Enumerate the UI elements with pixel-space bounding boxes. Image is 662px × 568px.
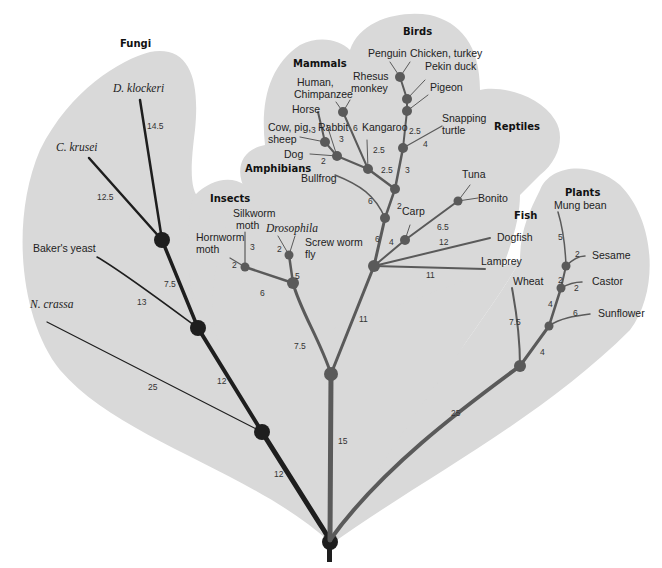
group-label-birds: Birds [403,26,432,37]
distance-label: 2.5 [381,165,393,175]
species-label: Snapping [442,112,487,124]
distance-label: 3 [339,134,344,144]
species-label: Pigeon [430,81,463,93]
species-label: Kangaroo [362,121,408,133]
species-label: Penguin [368,47,407,59]
species-label: monkey [351,82,389,94]
distance-label: 11 [359,314,368,324]
species-label: Baker's yeast [33,242,96,254]
distance-label: 2.5 [373,145,385,155]
species-label: Rabbit [318,121,348,133]
species-label: Dog [284,148,303,160]
distance-label: 5 [295,271,300,281]
distance-label: 12 [217,376,227,386]
species-label: moth [236,219,260,231]
distance-label: 2 [321,156,326,166]
distance-label: 4 [540,347,545,357]
distance-label: 12 [274,469,284,479]
species-label: Horse [292,103,320,115]
group-label-fish: Fish [514,210,537,221]
species-label: Pekin duck [425,60,477,72]
distance-label: 12 [439,237,449,247]
species-label: Human, [297,76,334,88]
distance-label: 3 [311,125,316,135]
species-label: D. klockeri [112,82,164,94]
species-label: Drosophila [265,222,318,235]
distance-label: 4 [548,299,553,309]
distance-label: 25 [451,408,461,418]
species-label: Cow, pig, [268,121,311,133]
species-label: Wheat [513,275,543,287]
species-label: Hornworm [196,231,245,243]
distance-label: 7.5 [164,279,176,289]
distance-label: 4 [423,139,428,149]
species-label: Chimpanzee [294,88,353,100]
species-label: Sunflower [598,307,645,319]
group-label-mammals: Mammals [293,58,347,69]
distance-label: 2 [558,275,563,285]
distance-label: 2 [277,244,282,254]
node [154,232,170,248]
group-label-fungi: Fungi [120,38,151,49]
species-label: Silkworm [233,207,276,219]
distance-label: 2 [575,249,580,259]
node [254,424,270,440]
distance-label: 12.5 [97,192,114,202]
distance-label: 25 [148,382,158,392]
distance-label: 15 [338,436,348,446]
species-label: Rhesus [353,70,389,82]
species-label: Chicken, turkey [410,47,483,59]
group-label-insects: Insects [210,193,250,204]
distance-label: 2 [232,260,237,270]
species-label: Bonito [478,192,508,204]
species-label: N. crassa [29,298,74,310]
species-label: sheep [268,133,297,145]
group-label-reptiles: Reptiles [494,121,540,132]
group-label-plants: Plants [565,187,600,198]
distance-label: 6 [353,123,358,133]
distance-label: 6 [260,288,265,298]
species-label: Sesame [592,249,631,261]
distance-label: 5 [558,232,563,242]
node [190,320,206,336]
distance-label: 11 [426,270,435,280]
distance-label: 2 [574,283,579,293]
distance-label: 6 [573,308,578,318]
species-label: fly [305,248,316,260]
distance-label: 14.5 [147,121,164,131]
species-label: Screw worm [305,236,363,248]
distance-label: 2 [397,201,402,211]
distance-label: 7.5 [294,341,306,351]
species-label: Mung bean [554,199,607,211]
species-label: Carp [402,205,425,217]
species-label: Bullfrog [301,172,337,184]
distance-label: 2.5 [409,126,421,136]
species-label: Lamprey [481,255,523,267]
species-label: Tuna [462,168,486,180]
species-label: Dogfish [497,231,533,243]
distance-label: 3 [405,165,410,175]
distance-label: 6 [375,234,380,244]
distance-label: 7.5 [509,317,521,327]
species-label: Castor [592,275,623,287]
distance-label: 6 [368,196,373,206]
distance-label: 13 [137,297,147,307]
distance-label: 4 [389,237,394,247]
species-label: turtle [442,124,466,136]
distance-label: 3 [250,242,255,252]
distance-label: 6.5 [437,222,449,232]
species-label: C. krusei [56,141,98,153]
species-label: moth [196,243,220,255]
phylogenetic-tree: Fungi Insects Amphibians Mammals Birds R… [0,0,662,568]
